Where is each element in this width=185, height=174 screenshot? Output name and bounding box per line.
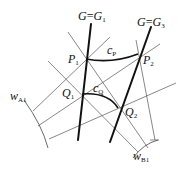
label-wB1: wB1 [133,149,150,164]
label-P2: P2 [142,53,154,68]
construction-lines [33,32,176,152]
line-G1 [78,24,91,140]
thin-line-through-q1-p2 [38,44,160,126]
geometry-diagram: G=G1 G=G3 P1 P2 Q1 Q2 cP cQ wA1 wB1 [0,0,185,174]
label-cP: cP [107,43,116,58]
label-G3: G=G3 [137,15,165,30]
line-G3 [110,27,151,142]
label-Q2: Q2 [125,105,138,120]
label-G1: G=G1 [78,9,106,24]
label-P1: P1 [67,52,79,67]
label-Q1: Q1 [62,86,75,101]
label-wA1: wA1 [10,89,27,104]
arc-wA1 [24,100,48,148]
